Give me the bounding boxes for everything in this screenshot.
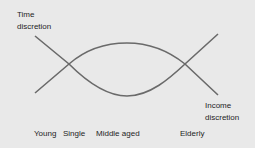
stage-middle-aged: Middle aged — [96, 128, 140, 140]
stage-single: Single — [63, 128, 85, 140]
income-label-line2: discretion — [205, 112, 239, 124]
income-discretion-label: Income discretion — [205, 100, 239, 124]
stage-elderly: Elderly — [180, 128, 204, 140]
income-discretion-curve — [35, 43, 218, 95]
income-label-line1: Income — [205, 100, 239, 112]
stage-young: Young — [34, 128, 56, 140]
lifecycle-curves — [0, 0, 255, 148]
